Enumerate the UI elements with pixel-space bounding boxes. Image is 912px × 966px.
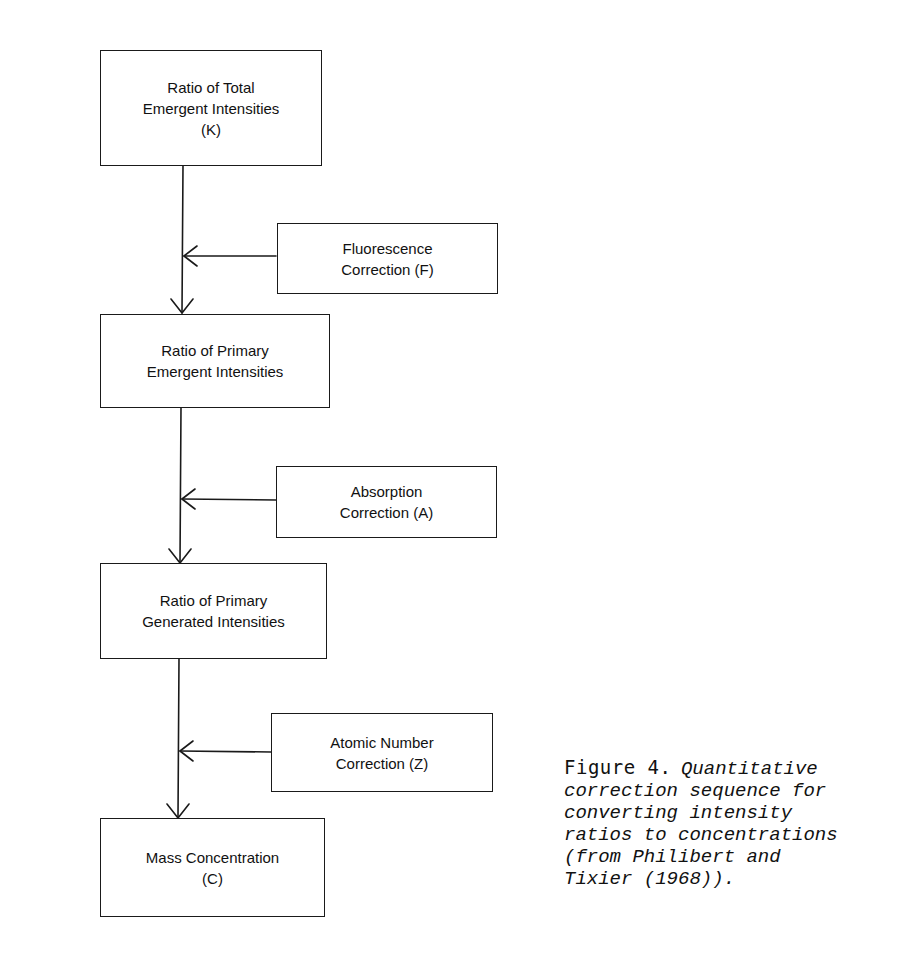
caption-line-6: Tixier (1968)). (564, 868, 904, 890)
caption-line-2: correction sequence for (564, 780, 904, 802)
figure-label: Figure 4. (564, 756, 671, 778)
box-f-line-2: Correction (F) (341, 259, 434, 280)
edge-primary-generated-to-c (178, 658, 179, 818)
figure-caption: Figure 4. Quantitative correction sequen… (564, 756, 904, 890)
box-absorption-correction-a: Absorption Correction (A) (276, 466, 497, 538)
box-mass-concentration-c: Mass Concentration (C) (100, 818, 325, 917)
box-primary-emergent-intensities: Ratio of Primary Emergent Intensities (100, 314, 330, 408)
caption-line-3: converting intensity (564, 802, 904, 824)
box-k-line-1: Ratio of Total (167, 77, 254, 98)
box-primary-emergent-line-2: Emergent Intensities (147, 361, 284, 382)
edge-a-correction (182, 499, 276, 500)
box-z-line-1: Atomic Number (330, 732, 433, 753)
box-c-line-2: (C) (202, 868, 223, 889)
edge-k-to-primary-emergent (182, 165, 183, 313)
box-atomic-number-correction-z: Atomic Number Correction (Z) (271, 713, 493, 792)
box-primary-generated-intensities: Ratio of Primary Generated Intensities (100, 563, 327, 659)
box-primary-emergent-line-1: Ratio of Primary (161, 340, 269, 361)
caption-text-1: Quantitative (681, 758, 818, 780)
box-c-line-1: Mass Concentration (146, 847, 279, 868)
caption-line-5: (from Philibert and (564, 846, 904, 868)
box-f-line-1: Fluorescence (342, 238, 432, 259)
box-k-line-3: (K) (201, 119, 221, 140)
caption-line-1: Figure 4. Quantitative (564, 756, 904, 780)
box-primary-generated-line-2: Generated Intensities (142, 611, 285, 632)
box-primary-generated-line-1: Ratio of Primary (160, 590, 268, 611)
edge-z-correction (180, 751, 271, 752)
caption-line-4: ratios to concentrations (564, 824, 904, 846)
edge-primary-emergent-to-generated (180, 407, 181, 563)
box-total-emergent-intensities-k: Ratio of Total Emergent Intensities (K) (100, 50, 322, 166)
box-k-line-2: Emergent Intensities (143, 98, 280, 119)
box-z-line-2: Correction (Z) (336, 753, 429, 774)
box-a-line-2: Correction (A) (340, 502, 433, 523)
box-a-line-1: Absorption (351, 481, 423, 502)
box-fluorescence-correction-f: Fluorescence Correction (F) (277, 223, 498, 294)
